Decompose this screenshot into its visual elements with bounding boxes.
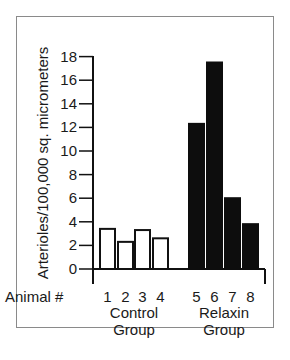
y-tick-label: 2 — [69, 236, 77, 253]
bar-animal-1 — [100, 229, 115, 269]
bars — [100, 63, 258, 270]
category-labels: 12345678 — [103, 288, 254, 305]
y-tick-label: 12 — [60, 118, 77, 135]
control-group-label-line2: Group — [113, 321, 155, 338]
y-tick-label: 0 — [69, 260, 77, 277]
bar-animal-6 — [207, 63, 222, 270]
bar-chart: Arterioles/100,000 sq. micrometers 02468… — [0, 0, 290, 360]
category-label: 4 — [156, 288, 164, 305]
y-tick-label: 8 — [69, 166, 77, 183]
category-label: 8 — [246, 288, 254, 305]
category-label: 6 — [210, 288, 218, 305]
relaxin-group-label-line2: Group — [203, 321, 245, 338]
bar-animal-4 — [153, 238, 168, 269]
y-tick-label: 18 — [60, 48, 77, 65]
y-tick-label: 4 — [69, 213, 77, 230]
category-label: 2 — [121, 288, 129, 305]
x-axis-label: Animal # — [5, 288, 64, 305]
y-tick-label: 6 — [69, 189, 77, 206]
control-group-label-line1: Control — [110, 304, 158, 321]
bar-animal-3 — [135, 230, 150, 269]
y-tick-label: 14 — [60, 95, 77, 112]
category-label: 1 — [103, 288, 111, 305]
category-label: 7 — [228, 288, 236, 305]
y-tick-label: 16 — [60, 71, 77, 88]
category-label: 3 — [138, 288, 146, 305]
relaxin-group-label-line1: Relaxin — [199, 304, 249, 321]
bar-animal-2 — [118, 242, 133, 269]
category-label: 5 — [192, 288, 200, 305]
y-tick-label: 10 — [60, 142, 77, 159]
bar-animal-8 — [243, 224, 258, 269]
bar-animal-7 — [225, 198, 240, 269]
y-axis-label: Arterioles/100,000 sq. micrometers — [34, 47, 51, 280]
y-axis-ticks: 024681012141618 — [60, 48, 93, 277]
bar-animal-5 — [189, 124, 204, 269]
